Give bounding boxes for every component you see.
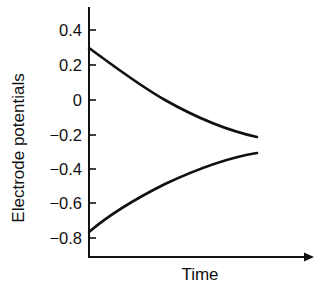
x-axis-arrow-icon — [304, 253, 314, 262]
y-tick-label: −0.8 — [49, 229, 82, 247]
y-ticks — [89, 30, 96, 238]
x-axis-label: Time — [181, 265, 218, 284]
y-tick-label: −0.2 — [49, 126, 82, 144]
y-tick-label: 0.2 — [59, 56, 82, 74]
y-tick-label: −0.4 — [49, 160, 82, 178]
electrode-potential-chart: 0.4 0.2 0 −0.2 −0.4 −0.6 −0.8 Electrode … — [0, 0, 322, 290]
lower-potential-curve — [89, 153, 257, 232]
upper-potential-curve — [89, 48, 257, 137]
y-axis-label: Electrode potentials — [9, 73, 28, 222]
y-tick-label: 0 — [73, 91, 82, 109]
chart-svg: 0.4 0.2 0 −0.2 −0.4 −0.6 −0.8 Electrode … — [0, 0, 322, 290]
y-tick-label: −0.6 — [49, 194, 82, 212]
y-tick-labels: 0.4 0.2 0 −0.2 −0.4 −0.6 −0.8 — [49, 21, 82, 247]
y-tick-label: 0.4 — [59, 21, 82, 39]
